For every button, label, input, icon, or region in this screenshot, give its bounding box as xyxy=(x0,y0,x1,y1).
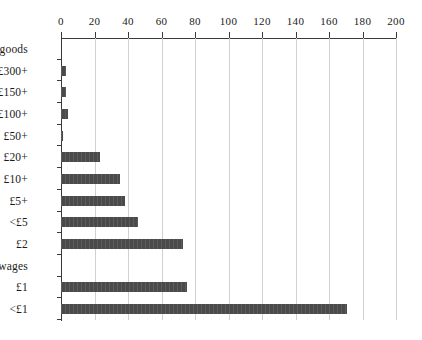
bar-row: £150+ xyxy=(61,81,396,103)
x-tick-label-0: 0 xyxy=(58,16,64,27)
category-label-5: £20+ xyxy=(3,151,28,163)
x-tick-label-140: 140 xyxy=(287,16,304,27)
category-label-9: £2 xyxy=(16,238,28,250)
bar-6 xyxy=(61,174,120,184)
bar-8 xyxy=(61,217,138,227)
category-label-11: £1 xyxy=(16,281,28,293)
bar-row: £100+ xyxy=(61,103,396,125)
bar-row: £1 xyxy=(61,277,396,299)
bar-row: £50+ xyxy=(61,125,396,147)
bar-4 xyxy=(61,131,63,141)
bar-row: £5+ xyxy=(61,190,396,212)
bar-row: <£1 xyxy=(61,298,396,320)
bar-2 xyxy=(61,87,66,97)
bar-row: £300+ xyxy=(61,60,396,82)
category-label-3: £100+ xyxy=(0,108,28,120)
bar-row: £2 xyxy=(61,233,396,255)
x-tick-label-80: 80 xyxy=(189,16,201,27)
category-label-1: £300+ xyxy=(0,65,28,77)
bar-5 xyxy=(61,152,100,162)
gridline-200 xyxy=(396,38,397,320)
bar-chart: 020406080100120140160180200 goods£300+£1… xyxy=(0,0,422,340)
x-tick-label-40: 40 xyxy=(122,16,134,27)
category-label-0: goods xyxy=(0,43,28,55)
x-tick-200 xyxy=(396,32,397,38)
x-tick-label-100: 100 xyxy=(220,16,237,27)
bar-12 xyxy=(61,304,347,314)
category-label-7: £5+ xyxy=(9,195,28,207)
bar-row: wages xyxy=(61,255,396,277)
category-label-4: £50+ xyxy=(3,130,28,142)
bar-9 xyxy=(61,239,183,249)
bar-7 xyxy=(61,196,125,206)
x-tick-label-180: 180 xyxy=(354,16,371,27)
bar-3 xyxy=(61,109,68,119)
bar-row: £20+ xyxy=(61,146,396,168)
category-label-10: wages xyxy=(0,260,28,272)
x-tick-label-60: 60 xyxy=(156,16,168,27)
x-tick-label-120: 120 xyxy=(253,16,270,27)
x-tick-label-20: 20 xyxy=(89,16,101,27)
bar-11 xyxy=(61,282,187,292)
bar-row: £10+ xyxy=(61,168,396,190)
x-tick-label-200: 200 xyxy=(387,16,404,27)
bar-row: goods xyxy=(61,38,396,60)
category-label-8: <£5 xyxy=(9,216,28,228)
bar-row: <£5 xyxy=(61,212,396,234)
x-tick-label-160: 160 xyxy=(320,16,337,27)
category-label-2: £150+ xyxy=(0,86,28,98)
y-tick xyxy=(57,319,61,320)
bar-1 xyxy=(61,66,66,76)
category-label-6: £10+ xyxy=(3,173,28,185)
category-label-12: <£1 xyxy=(9,303,28,315)
